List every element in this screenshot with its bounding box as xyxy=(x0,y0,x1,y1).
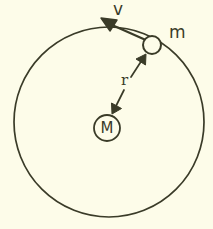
orbiting-mass-label: m xyxy=(169,24,186,41)
central-mass-label: M xyxy=(96,119,118,137)
radius-label: r xyxy=(121,73,128,88)
radius-arrowhead-upper xyxy=(136,54,146,65)
velocity-arrowhead xyxy=(101,18,117,31)
orbital-motion-diagram: v m r M xyxy=(0,0,213,229)
velocity-label: v xyxy=(113,1,123,18)
orbiting-mass-circle xyxy=(143,36,161,54)
radius-line-upper xyxy=(131,60,142,77)
